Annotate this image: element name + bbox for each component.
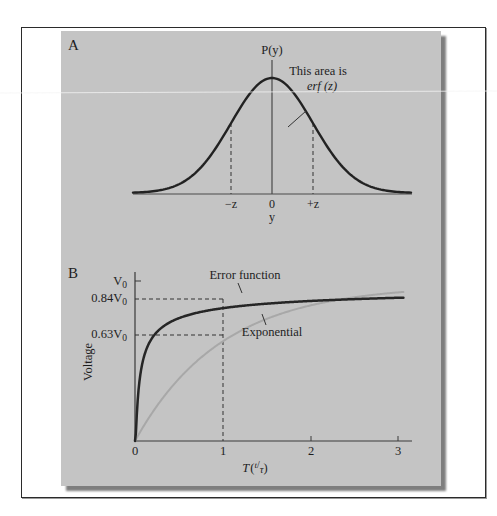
figure-svg: A P(y) This area is erf (z) −z 0 +z y B (0, 0, 497, 516)
panel-a-y-label: P(y) (261, 43, 283, 57)
area-annotation-leader (288, 111, 306, 127)
area-annotation-line2: erf (z) (307, 79, 337, 93)
panel-a-label: A (68, 37, 79, 53)
x-tick-label-1: 1 (220, 444, 226, 458)
y-tick-label-v0-main: V (113, 274, 122, 288)
panel-b: B Error function Exponential V0 0.84V0 0… (68, 265, 412, 475)
x-tick-label-3: 3 (395, 444, 401, 458)
y-tick-label-v0-sub: 0 (122, 280, 127, 290)
x-tick-label-0: 0 (132, 444, 138, 458)
erf-label-leader (238, 283, 242, 293)
y-tick-label-063: 0.63V0 (91, 327, 127, 343)
x-label-main: T (242, 461, 250, 475)
scan-artifact-line (0, 91, 497, 93)
panel-a-x-label: y (269, 210, 275, 224)
erf-label: Error function (209, 268, 281, 282)
panel-a: A P(y) This area is erf (z) −z 0 +z y (68, 37, 412, 224)
error-function-curve (135, 298, 403, 441)
tick-label-plus-z: +z (307, 197, 319, 211)
panel-b-x-label: T(t/τ) (242, 459, 267, 475)
exponential-curve (135, 292, 403, 441)
x-tick-label-2: 2 (308, 444, 314, 458)
area-annotation-line1: This area is (289, 64, 347, 78)
y-tick-label-084-main: 0.84V (91, 291, 122, 305)
tick-label-minus-z: −z (225, 197, 237, 211)
panel-b-label: B (68, 265, 78, 281)
panel-b-y-label: Voltage (81, 343, 95, 381)
y-tick-label-v0: V0 (113, 274, 127, 290)
exp-label: Exponential (242, 325, 303, 339)
y-tick-label-084-sub: 0 (122, 297, 127, 307)
y-tick-label-063-sub: 0 (122, 333, 127, 343)
y-tick-label-063-main: 0.63V (91, 327, 122, 341)
y-tick-label-084: 0.84V0 (91, 291, 127, 307)
tick-label-zero: 0 (269, 197, 275, 211)
